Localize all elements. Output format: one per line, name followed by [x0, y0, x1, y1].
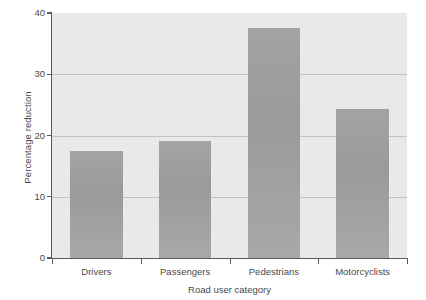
y-axis-tick-label: 10 [5, 192, 45, 202]
bar [70, 151, 122, 258]
x-axis-tick-mark [230, 259, 231, 264]
bar [248, 28, 300, 258]
bar [159, 141, 211, 258]
y-axis-tick-label: 20 [5, 131, 45, 141]
x-axis-tick-mark [407, 259, 408, 264]
y-axis-tick-label: 0 [5, 253, 45, 263]
y-axis-tick-mark [47, 74, 51, 75]
y-axis-tick-mark [47, 12, 51, 13]
y-axis-tick-label: 30 [5, 69, 45, 79]
x-axis-category-label: Motorcyclists [318, 266, 407, 277]
x-axis-category-label: Drivers [52, 266, 141, 277]
x-axis-title: Road user category [52, 284, 407, 295]
x-axis-tick-mark [318, 259, 319, 264]
y-axis-line [51, 12, 52, 259]
gridline [52, 74, 407, 75]
bar-chart-figure: Percentage reduction 010203040 Road user… [0, 0, 426, 300]
bar [336, 109, 388, 258]
y-axis-tick-mark [47, 257, 51, 258]
y-axis-tick-mark [47, 135, 51, 136]
y-axis-tick-labels: 010203040 [0, 0, 45, 300]
y-axis-tick-label: 40 [5, 8, 45, 18]
x-axis-tick-mark [52, 259, 53, 264]
x-axis-category-label: Passengers [141, 266, 230, 277]
y-axis-tick-mark [47, 196, 51, 197]
x-axis-category-label: Pedestrians [230, 266, 319, 277]
x-axis-tick-mark [141, 259, 142, 264]
